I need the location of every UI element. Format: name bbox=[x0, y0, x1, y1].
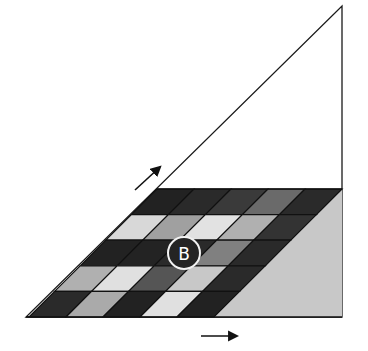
marker-b: B bbox=[168, 237, 200, 269]
diagonal-arrow-icon bbox=[135, 167, 160, 190]
sheared-grid-diagram: B bbox=[0, 0, 368, 351]
marker-label: B bbox=[178, 244, 190, 264]
